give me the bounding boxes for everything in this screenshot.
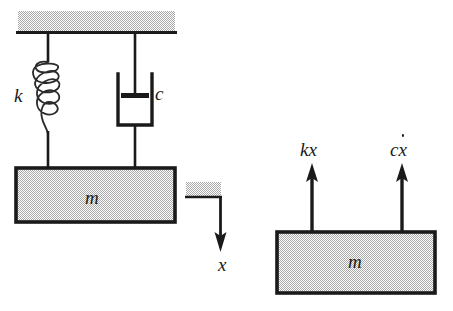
velocity-variable: x [398, 139, 406, 160]
displacement-label: x [218, 255, 226, 274]
mass-label-system: m [85, 188, 99, 207]
reference-datum-block [186, 182, 221, 196]
mass-label-fbd: m [348, 252, 362, 271]
spring-constant-label: k [14, 86, 22, 105]
damping-coefficient-label: c [155, 84, 163, 103]
damper-force-velocity-term: x [398, 140, 406, 159]
dashpot-piston-plate [121, 93, 149, 98]
spring-force-label: kx [300, 140, 317, 159]
figure-canvas [0, 0, 453, 311]
spring-coils [33, 62, 59, 134]
velocity-dot-accent [402, 134, 405, 137]
ceiling-support-block [18, 11, 175, 31]
damper-force-label: cx [390, 140, 407, 159]
mechanics-figure: k c m x kx cx m [0, 0, 453, 311]
